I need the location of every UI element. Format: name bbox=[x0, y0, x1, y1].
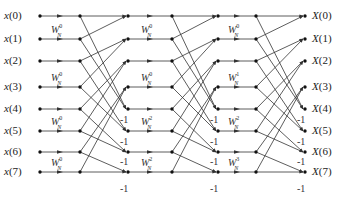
negation-label: -1 bbox=[297, 137, 305, 147]
arrow-icon bbox=[57, 14, 63, 18]
butterfly-line bbox=[256, 109, 303, 152]
twiddle-factor-label: W2N bbox=[141, 116, 156, 129]
butterfly-line bbox=[256, 16, 303, 39]
negation-label: -1 bbox=[210, 184, 218, 194]
input-node-dot bbox=[38, 85, 41, 88]
butterfly-line bbox=[172, 39, 216, 109]
node-dot bbox=[170, 14, 173, 17]
output-label: X(5) bbox=[312, 125, 332, 136]
twiddle-factor-label: W0N bbox=[51, 116, 66, 129]
input-node-dot bbox=[38, 37, 41, 40]
node-dot bbox=[254, 150, 257, 153]
node-dot bbox=[216, 37, 219, 40]
arrow-icon bbox=[147, 59, 153, 63]
input-label: x(0) bbox=[4, 10, 22, 21]
arrow-icon bbox=[147, 150, 153, 154]
butterfly-line bbox=[172, 39, 216, 87]
node-dot bbox=[78, 107, 81, 110]
arrow-icon bbox=[57, 59, 63, 63]
node-dot bbox=[78, 14, 81, 17]
node-dot bbox=[303, 129, 306, 132]
butterfly-line bbox=[80, 16, 126, 39]
output-label: X(2) bbox=[312, 55, 332, 66]
arrow-icon bbox=[234, 107, 240, 111]
input-node-dot bbox=[38, 14, 41, 17]
input-node-dot bbox=[38, 170, 41, 173]
butterfly-line bbox=[256, 39, 303, 87]
node-dot bbox=[216, 129, 219, 132]
twiddle-factor-label: W0N bbox=[141, 24, 156, 37]
butterfly-line bbox=[256, 61, 303, 109]
butterfly-line bbox=[172, 61, 216, 109]
node-dot bbox=[216, 85, 219, 88]
arrow-icon bbox=[57, 150, 63, 154]
output-label: X(0) bbox=[312, 10, 332, 21]
twiddle-factor-label: W0N bbox=[141, 72, 156, 85]
node-dot bbox=[254, 129, 257, 132]
node-dot bbox=[254, 170, 257, 173]
negation-label: -1 bbox=[210, 115, 218, 125]
node-dot bbox=[303, 107, 306, 110]
twiddle-factor-label: W2N bbox=[141, 157, 156, 170]
twiddle-factor-label: W0N bbox=[51, 157, 66, 170]
twiddle-factor-label: W0N bbox=[228, 24, 243, 37]
input-node-dot bbox=[38, 107, 41, 110]
node-dot bbox=[78, 37, 81, 40]
node-dot bbox=[78, 59, 81, 62]
node-dot bbox=[170, 129, 173, 132]
butterfly-line bbox=[256, 87, 303, 131]
output-label: X(3) bbox=[312, 81, 332, 92]
node-dot bbox=[170, 37, 173, 40]
node-dot bbox=[216, 14, 219, 17]
node-dot bbox=[216, 170, 219, 173]
output-label: X(6) bbox=[312, 146, 332, 157]
twiddle-factor-label: W2N bbox=[228, 116, 243, 129]
negation-label: -1 bbox=[120, 137, 128, 147]
node-dot bbox=[254, 85, 257, 88]
input-label: x(4) bbox=[4, 103, 22, 114]
node-dot bbox=[254, 37, 257, 40]
node-dot bbox=[170, 170, 173, 173]
input-node-dot bbox=[38, 59, 41, 62]
butterfly-line bbox=[80, 61, 126, 109]
node-dot bbox=[78, 170, 81, 173]
arrow-icon bbox=[234, 150, 240, 154]
input-label: x(7) bbox=[4, 166, 22, 177]
butterfly-line bbox=[256, 131, 303, 152]
output-label: X(1) bbox=[312, 33, 332, 44]
input-label: x(2) bbox=[4, 55, 22, 66]
node-dot bbox=[78, 150, 81, 153]
node-dot bbox=[126, 107, 129, 110]
twiddle-factor-label: W0N bbox=[51, 72, 66, 85]
node-dot bbox=[303, 37, 306, 40]
negation-label: -1 bbox=[210, 137, 218, 147]
negation-label: -1 bbox=[297, 184, 305, 194]
negation-label: -1 bbox=[210, 157, 218, 167]
arrow-icon bbox=[234, 14, 240, 18]
negation-label: -1 bbox=[120, 115, 128, 125]
negation-label: -1 bbox=[297, 157, 305, 167]
arrow-icon bbox=[57, 107, 63, 111]
input-label: x(6) bbox=[4, 146, 22, 157]
butterfly-line bbox=[256, 39, 303, 109]
node-dot bbox=[126, 14, 129, 17]
input-label: x(1) bbox=[4, 33, 22, 44]
input-label: x(3) bbox=[4, 81, 22, 92]
node-dot bbox=[254, 14, 257, 17]
butterfly-line bbox=[256, 87, 303, 152]
input-node-dot bbox=[38, 129, 41, 132]
twiddle-factor-label: W0N bbox=[51, 24, 66, 37]
negation-label: -1 bbox=[297, 115, 305, 125]
butterfly-line bbox=[172, 16, 216, 39]
arrow-icon bbox=[234, 59, 240, 63]
node-dot bbox=[303, 59, 306, 62]
node-dot bbox=[78, 85, 81, 88]
node-dot bbox=[303, 150, 306, 153]
butterfly-line bbox=[256, 152, 303, 172]
twiddle-factor-label: W3N bbox=[228, 157, 243, 170]
butterfly-line bbox=[80, 39, 126, 87]
negation-label: -1 bbox=[120, 184, 128, 194]
node-dot bbox=[126, 170, 129, 173]
node-dot bbox=[216, 150, 219, 153]
node-dot bbox=[126, 129, 129, 132]
